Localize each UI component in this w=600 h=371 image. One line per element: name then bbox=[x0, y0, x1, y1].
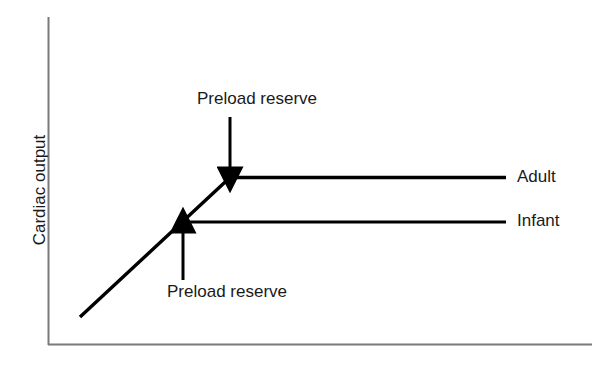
series-label-infant: Infant bbox=[517, 211, 560, 231]
adult-curve bbox=[80, 178, 506, 318]
chart-canvas bbox=[0, 0, 600, 371]
cardiac-output-preload-chart: Cardiac output Preload reserve Preload r… bbox=[0, 0, 600, 371]
annotation-preload-reserve-upper: Preload reserve bbox=[197, 89, 317, 109]
series-label-adult: Adult bbox=[517, 167, 556, 187]
y-axis-label: Cardiac output bbox=[30, 90, 50, 290]
annotation-preload-reserve-lower: Preload reserve bbox=[167, 282, 287, 302]
